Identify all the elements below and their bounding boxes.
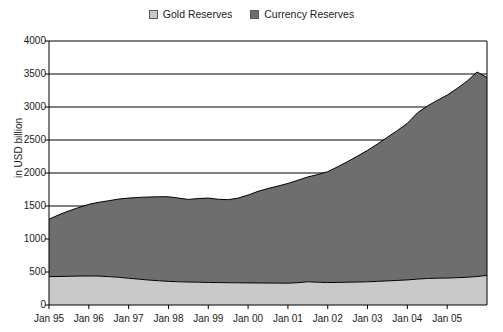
stacked-area-chart: Gold Reserves Currency Reserves in USD b… (0, 0, 503, 332)
y-axis-tick-marks (45, 41, 49, 305)
plot-area (0, 0, 503, 332)
area-currency-reserves (49, 72, 487, 283)
x-axis-tick-marks (49, 305, 447, 309)
